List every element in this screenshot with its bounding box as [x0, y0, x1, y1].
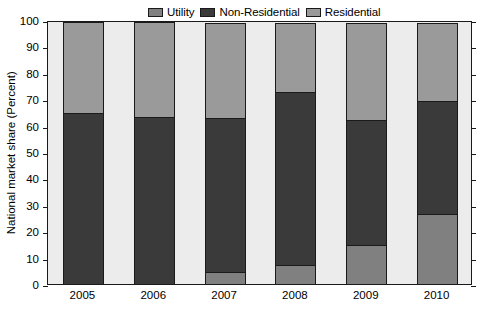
y-axis-label: 0 — [33, 280, 39, 292]
chart-legend: Utility Non-Residential Residential — [148, 5, 381, 20]
legend-label-residential: Residential — [325, 7, 381, 19]
y-axis-label: 90 — [26, 43, 39, 55]
x-axis-label: 2010 — [424, 290, 450, 302]
legend-item-utility: Utility — [148, 7, 194, 19]
y-axis-tick-right — [471, 286, 476, 287]
y-axis-label: 30 — [26, 201, 39, 213]
bar-segment — [346, 23, 387, 121]
x-axis-label: 2008 — [282, 290, 308, 302]
y-axis-tick — [43, 101, 48, 102]
y-axis-tick-right — [471, 48, 476, 49]
y-axis-title: National market share (Percent) — [4, 21, 18, 285]
bar-segment — [63, 22, 104, 114]
y-axis-tick-right — [471, 180, 476, 181]
bar-segment — [417, 101, 458, 215]
y-axis-tick — [43, 286, 48, 287]
bar-segment — [346, 120, 387, 247]
y-axis-tick — [43, 180, 48, 181]
legend-label-non-residential: Non-Residential — [219, 7, 299, 19]
legend-swatch-utility — [148, 8, 163, 17]
legend-item-non-residential: Non-Residential — [200, 7, 299, 19]
y-axis-tick — [43, 207, 48, 208]
bar-stack — [346, 20, 387, 284]
bar-stack — [275, 20, 316, 284]
x-axis-label: 2009 — [353, 290, 379, 302]
y-axis-tick — [43, 22, 48, 23]
bar-stack — [205, 20, 246, 284]
bar-segment — [63, 113, 104, 285]
y-axis-label: 100 — [20, 16, 39, 28]
bar-stack — [134, 20, 175, 284]
y-axis-label: 50 — [26, 148, 39, 160]
bar-segment — [205, 272, 246, 285]
legend-swatch-non-residential — [200, 8, 215, 17]
y-axis-tick-right — [471, 128, 476, 129]
y-axis-tick — [43, 128, 48, 129]
legend-label-utility: Utility — [167, 7, 194, 19]
y-axis-label: 20 — [26, 227, 39, 239]
y-axis-tick-right — [471, 154, 476, 155]
y-axis-label: 80 — [26, 69, 39, 81]
y-axis-label: 40 — [26, 175, 39, 187]
bar-segment — [134, 22, 175, 118]
y-axis-tick — [43, 260, 48, 261]
x-axis-label: 2007 — [211, 290, 237, 302]
y-axis-tick — [43, 233, 48, 234]
bar-segment — [275, 265, 316, 285]
y-axis-tick-right — [471, 233, 476, 234]
y-axis-title-text: National market share (Percent) — [5, 72, 17, 235]
y-axis-label: 10 — [26, 254, 39, 266]
bar-stack — [63, 20, 104, 284]
plot-area: 0102030405060708090100 — [47, 21, 472, 285]
y-axis-tick — [43, 154, 48, 155]
legend-item-residential: Residential — [306, 7, 381, 19]
y-axis-label: 70 — [26, 95, 39, 107]
y-axis-tick-right — [471, 101, 476, 102]
x-axis-label: 2006 — [140, 290, 166, 302]
bar-segment — [346, 245, 387, 285]
bar-segment — [275, 23, 316, 93]
bar-segment — [134, 117, 175, 285]
y-axis-tick-right — [471, 260, 476, 261]
bar-segment — [205, 23, 246, 119]
y-axis-label: 60 — [26, 122, 39, 134]
legend-swatch-residential — [306, 8, 321, 17]
x-axis-label: 2005 — [70, 290, 96, 302]
bar-stack — [417, 20, 458, 284]
y-axis-tick-right — [471, 207, 476, 208]
chart-figure: Utility Non-Residential Residential Nati… — [0, 0, 493, 317]
bar-segment — [205, 118, 246, 272]
y-axis-tick-right — [471, 22, 476, 23]
y-axis-tick-right — [471, 75, 476, 76]
bar-segment — [275, 92, 316, 266]
y-axis-tick — [43, 48, 48, 49]
bar-segment — [417, 214, 458, 285]
bar-segment — [417, 23, 458, 102]
y-axis-tick — [43, 75, 48, 76]
